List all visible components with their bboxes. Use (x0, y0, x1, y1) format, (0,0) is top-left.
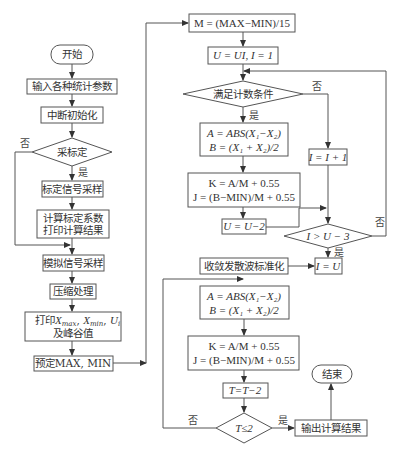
interrupt-init-label: 中断初始化 (47, 109, 98, 121)
t-no-label: 否 (188, 415, 198, 426)
k-formula-label-2: K = A/M + 0.55 (209, 340, 280, 352)
a-formula-label: A = ABS(X₁−X₂) (206, 127, 281, 140)
b-formula-label-2: B = (X₁ + X₂)/2 (209, 304, 279, 317)
m-formula-label: M = (MAX−MIN)/15 (194, 17, 291, 30)
compress-label: 压缩处理 (53, 285, 94, 297)
u-init-label: U = UI, I = 1 (213, 49, 273, 61)
calib-sample-label: 标定信号采样 (42, 183, 102, 195)
i-equals-u-label: I = U (315, 260, 342, 272)
end-label: 结束 (322, 368, 343, 380)
count-yes-label: 是 (249, 110, 259, 121)
flowchart: 开始 输入各种统计参数 中断初始化 采标定 否 是 标定信号采样 计算标定系数 … (0, 0, 398, 460)
calibrate-decision-label: 采标定 (57, 146, 88, 158)
calc-coeff-line2: 打印计算结果 (43, 224, 104, 236)
count-no-label: 否 (312, 81, 322, 92)
i-compare-label: I > U − 3 (306, 230, 350, 242)
i-plus-label: I = I + 1 (308, 151, 348, 163)
analog-sample-label: 模拟信号采样 (43, 257, 103, 269)
calc-coeff-line1: 计算标定系数 (43, 212, 104, 224)
compare-yes-label: 是 (334, 247, 344, 258)
input-params-label: 输入各种统计参数 (32, 80, 113, 92)
a-formula-label-2: A = ABS(X₁−X₂) (206, 290, 281, 303)
u-minus-path (266, 208, 326, 227)
t-compare-label: T≤2 (235, 422, 253, 434)
b-formula-label: B = (X₁ + X₂)/2 (209, 141, 279, 154)
calibrate-no-label: 否 (20, 138, 30, 149)
compare-no-label: 否 (375, 217, 385, 228)
calibrate-yes-label: 是 (78, 167, 88, 178)
u-minus-label: U = U−2 (223, 220, 265, 232)
k-formula-label: K = A/M + 0.55 (209, 177, 280, 189)
t-minus-label: T=T−2 (229, 384, 262, 396)
output-label: 输出计算结果 (301, 422, 362, 434)
connector-path (146, 23, 188, 363)
start-label: 开始 (62, 48, 83, 60)
print-line1: 打印Xmax, Xmin, Ui (35, 314, 120, 328)
count-condition-label: 满足计数条件 (213, 88, 273, 100)
j-formula-label: J = (B−MIN)/M + 0.55 (193, 191, 296, 204)
normalize-label: 收敛发散波标准化 (204, 260, 285, 272)
preset-label: 预定MAX, MIN (35, 357, 112, 369)
print-line2: 及峰谷值 (53, 327, 94, 339)
count-no-path (303, 94, 328, 148)
j-formula-label-2: J = (B−MIN)/M + 0.55 (193, 354, 296, 367)
t-yes-label: 是 (278, 415, 288, 426)
